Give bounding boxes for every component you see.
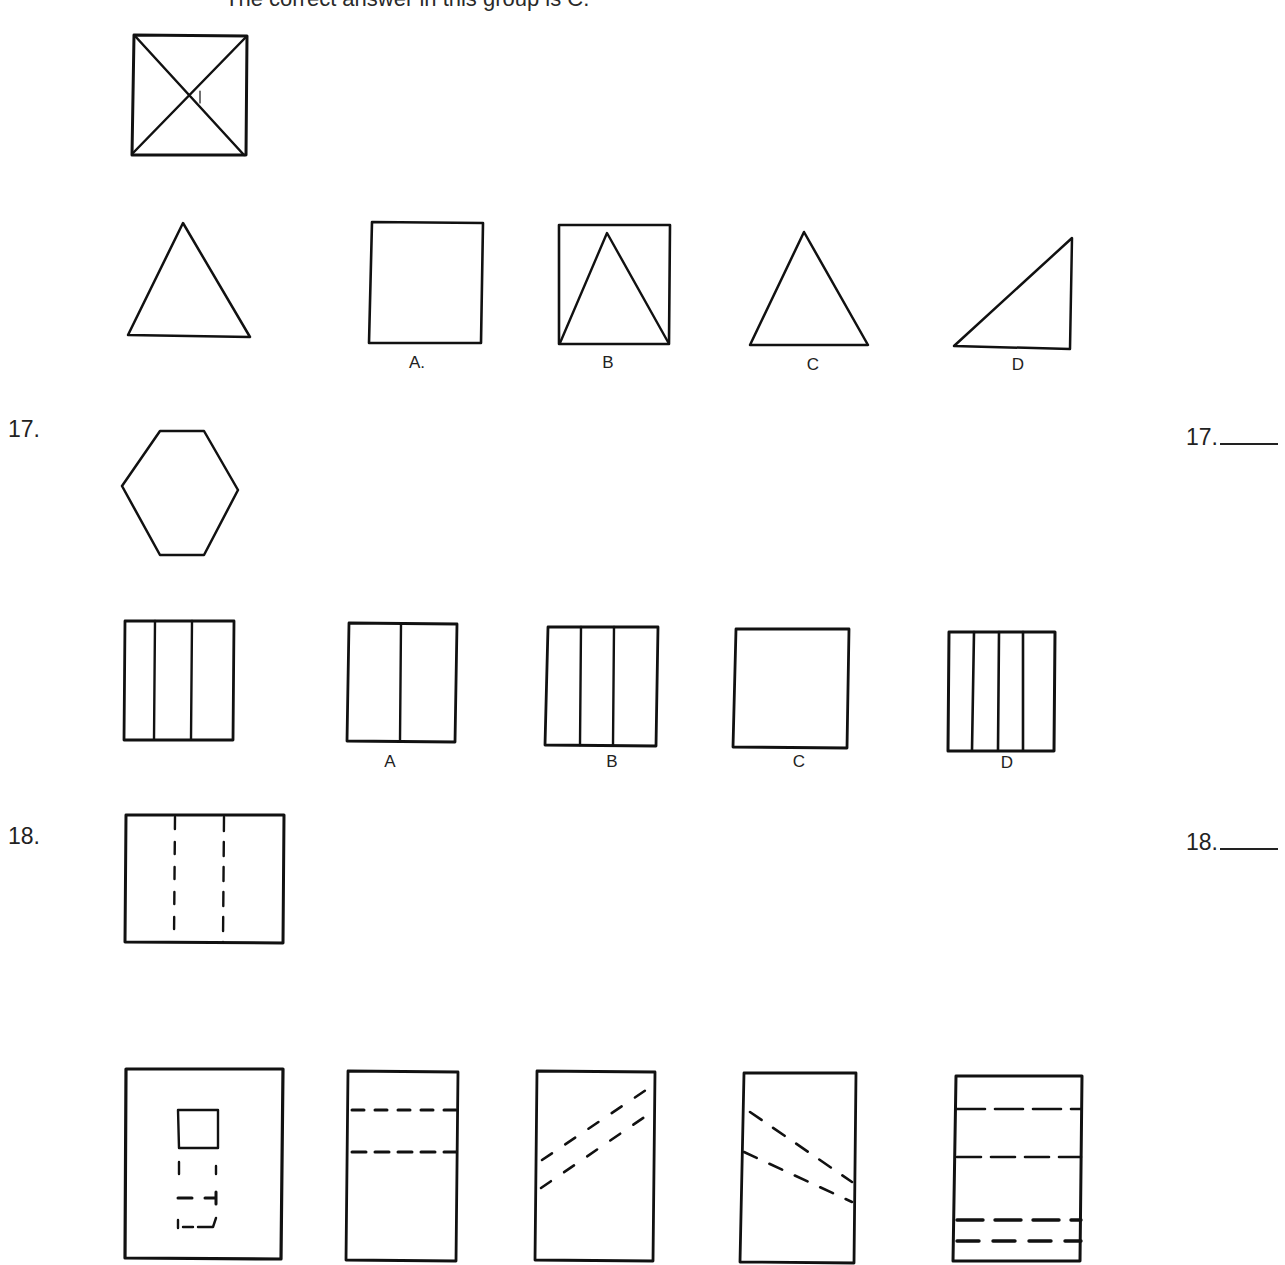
example-option-b-figure[interactable] — [557, 222, 673, 348]
question-17-option-b-label: B — [592, 752, 632, 772]
question-17-answer-label: 17. — [1186, 424, 1218, 450]
example-option-c-figure[interactable] — [748, 230, 872, 350]
example-option-a-label: A. — [397, 353, 437, 373]
instruction-caption: The correct answer in this group is C. — [225, 0, 589, 12]
question-18-prompt-figure — [123, 1066, 285, 1261]
question-17-stem-hexagon — [119, 428, 241, 558]
question-17-option-c-label: C — [779, 752, 819, 772]
question-17-option-b-figure[interactable] — [543, 624, 661, 750]
question-17-number: 17. — [8, 416, 40, 443]
question-18-answer-label: 18. — [1186, 829, 1218, 855]
example-option-b-label: B — [588, 353, 628, 373]
question-18-stem-figure — [123, 812, 287, 946]
example-option-d-label: D — [998, 355, 1038, 375]
answer-line[interactable] — [1220, 848, 1278, 850]
question-17-prompt-figure — [122, 618, 236, 744]
question-17-answer-blank[interactable]: 17. — [1186, 424, 1278, 451]
example-option-c-label: C — [793, 355, 833, 375]
question-17-option-a-figure[interactable] — [345, 620, 461, 746]
question-17-option-d-label: D — [987, 753, 1027, 773]
question-17-option-d-figure[interactable] — [946, 629, 1058, 755]
question-18-option-d-figure[interactable] — [951, 1073, 1085, 1263]
question-18-option-b-figure[interactable] — [533, 1068, 659, 1263]
question-18-option-a-figure[interactable] — [344, 1068, 462, 1263]
question-18-option-c-figure[interactable] — [738, 1070, 860, 1265]
example-option-d-figure[interactable] — [952, 234, 1076, 352]
question-17-option-c-figure[interactable] — [731, 626, 853, 752]
example-stem-figure — [130, 33, 250, 158]
question-18-answer-blank[interactable]: 18. — [1186, 829, 1278, 856]
answer-line[interactable] — [1220, 443, 1278, 445]
question-18-number: 18. — [8, 823, 40, 850]
question-17-option-a-label: A — [370, 752, 410, 772]
example-option-a-figure[interactable] — [366, 220, 486, 346]
example-prompt-triangle — [126, 220, 252, 342]
